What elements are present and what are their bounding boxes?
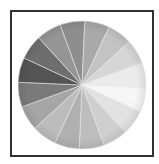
- pie-chart: [0, 0, 159, 164]
- pie-edge-shading: [18, 21, 146, 149]
